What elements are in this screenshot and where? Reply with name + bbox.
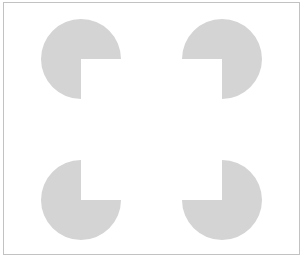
kanizsa-illusion-figure (0, 0, 303, 264)
kanizsa-figure-canvas (0, 0, 303, 264)
